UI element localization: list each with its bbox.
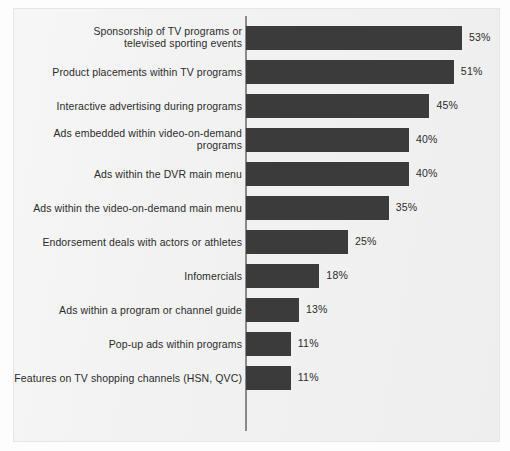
bar-category-label-line1: Interactive advertising during programs: [2, 100, 242, 112]
bar-row: Sponsorship of TV programs ortelevised s…: [0, 26, 510, 50]
bar-category-label: Ads within the video-on-demand main menu: [2, 202, 242, 214]
bar: [246, 60, 454, 84]
bar-category-label-line1: Ads within the DVR main menu: [2, 168, 242, 180]
bar-row: Product placements within TV programs51%: [0, 60, 510, 84]
bar-value-label: 25%: [355, 235, 377, 247]
bar-category-label: Endorsement deals with actors or athlete…: [2, 236, 242, 248]
bar-category-label-line1: Pop-up ads within programs: [2, 338, 242, 350]
bar-category-label: Interactive advertising during programs: [2, 100, 242, 112]
bar-category-label-line2: programs: [2, 139, 242, 151]
bar-value-label: 18%: [326, 269, 348, 281]
bar-value-label: 35%: [396, 201, 418, 213]
bar-value-label: 11%: [298, 371, 319, 383]
bar-value-label: 40%: [416, 133, 438, 145]
bar-rows-container: Sponsorship of TV programs ortelevised s…: [0, 26, 510, 400]
bar-value-label: 45%: [436, 99, 458, 111]
bar-category-label-line1: Features on TV shopping channels (HSN, Q…: [2, 372, 242, 384]
bar-category-label: Sponsorship of TV programs ortelevised s…: [2, 25, 242, 49]
bar-value-label: 53%: [469, 31, 491, 43]
chart-screenshot: Sponsorship of TV programs ortelevised s…: [0, 0, 510, 451]
bar-category-label-line1: Ads within the video-on-demand main menu: [2, 202, 242, 214]
bar-category-label-line1: Ads within a program or channel guide: [2, 304, 242, 316]
bar-row: Ads within the DVR main menu40%: [0, 162, 510, 186]
bar: [246, 332, 291, 356]
bar-category-label: Ads within a program or channel guide: [2, 304, 242, 316]
bar-row: Infomercials18%: [0, 264, 510, 288]
bar: [246, 162, 409, 186]
bar-row: Features on TV shopping channels (HSN, Q…: [0, 366, 510, 390]
bar-row: Endorsement deals with actors or athlete…: [0, 230, 510, 254]
bar: [246, 94, 429, 118]
bar-category-label: Pop-up ads within programs: [2, 338, 242, 350]
bar-category-label-line1: Endorsement deals with actors or athlete…: [2, 236, 242, 248]
bar-category-label: Features on TV shopping channels (HSN, Q…: [2, 372, 242, 384]
bar-category-label: Ads embedded within video-on-demandprogr…: [2, 127, 242, 151]
bar-category-label-line1: Product placements within TV programs: [2, 66, 242, 78]
bar: [246, 26, 462, 50]
bar: [246, 230, 348, 254]
bar-row: Interactive advertising during programs4…: [0, 94, 510, 118]
bar-value-label: 11%: [298, 337, 319, 349]
bar-category-label: Infomercials: [2, 270, 242, 282]
bar-value-label: 13%: [306, 303, 328, 315]
horizontal-bar-chart: Sponsorship of TV programs ortelevised s…: [0, 0, 510, 451]
bar: [246, 264, 319, 288]
bar-row: Ads within the video-on-demand main menu…: [0, 196, 510, 220]
bar-category-label-line1: Infomercials: [2, 270, 242, 282]
bar: [246, 366, 291, 390]
bar-row: Pop-up ads within programs11%: [0, 332, 510, 356]
bar-row: Ads within a program or channel guide13%: [0, 298, 510, 322]
bar-category-label-line1: Ads embedded within video-on-demand: [2, 127, 242, 139]
bar-category-label: Product placements within TV programs: [2, 66, 242, 78]
bar-category-label-line1: Sponsorship of TV programs or: [2, 25, 242, 37]
bar: [246, 298, 299, 322]
bar-category-label-line2: televised sporting events: [2, 37, 242, 49]
bar: [246, 128, 409, 152]
bar-value-label: 40%: [416, 167, 438, 179]
bar: [246, 196, 389, 220]
bar-value-label: 51%: [461, 65, 483, 77]
bar-row: Ads embedded within video-on-demandprogr…: [0, 128, 510, 152]
bar-category-label: Ads within the DVR main menu: [2, 168, 242, 180]
